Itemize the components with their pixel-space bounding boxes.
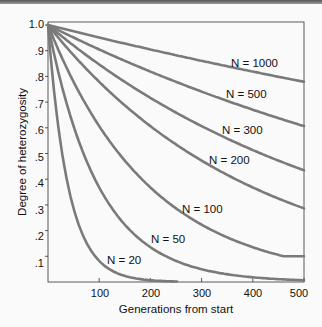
x-axis-title: Generations from start	[119, 303, 234, 315]
y-axis-title: Degree of heterozygosity	[16, 88, 28, 216]
heterozygosity-chart: 1.0 .9 .8 .7 .6 .5 .4 .3 .2 .1 100 200 3…	[0, 0, 322, 327]
x-tick-label: 100	[91, 287, 109, 299]
x-tick-label: 300	[193, 287, 211, 299]
y-tick-label: .9	[35, 45, 44, 57]
y-tick-label: .6	[35, 124, 44, 136]
y-tick-label: 1.0	[29, 18, 44, 30]
curve-n1000	[48, 25, 304, 82]
label-n50: N = 50	[151, 233, 185, 245]
label-n20: N = 20	[107, 254, 141, 266]
label-n500: N = 500	[226, 88, 267, 100]
curve-n200	[48, 25, 304, 208]
y-tick-label: .3	[35, 204, 44, 216]
y-tick-label: .8	[35, 71, 44, 83]
label-n100: N = 100	[182, 203, 223, 215]
label-n200: N = 200	[209, 154, 250, 166]
label-n300: N = 300	[222, 124, 263, 136]
x-tick-label: 500	[290, 287, 308, 299]
y-tick-label: .5	[35, 151, 44, 163]
x-tick-label: 200	[142, 287, 160, 299]
y-tick-label: .1	[35, 257, 44, 269]
x-tick-label: 400	[244, 287, 262, 299]
y-tick-label: .7	[35, 98, 44, 110]
y-tick-label: .2	[35, 230, 44, 242]
x-axis: 100 200 300 400 500	[91, 278, 308, 299]
curve-n500	[48, 25, 304, 126]
label-n1000: N = 1000	[231, 57, 278, 69]
y-tick-label: .4	[35, 177, 44, 189]
y-axis: 1.0 .9 .8 .7 .6 .5 .4 .3 .2 .1	[29, 18, 48, 269]
